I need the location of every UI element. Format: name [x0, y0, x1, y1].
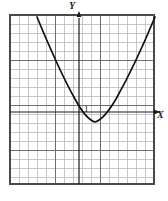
- unit-annotation-label: 1: [84, 105, 89, 114]
- graph-figure: Y X 1: [0, 0, 168, 201]
- paper-background: [0, 0, 168, 201]
- y-axis-label: Y: [69, 1, 75, 11]
- graph-canvas: [0, 0, 168, 201]
- x-axis-label: X: [157, 110, 164, 120]
